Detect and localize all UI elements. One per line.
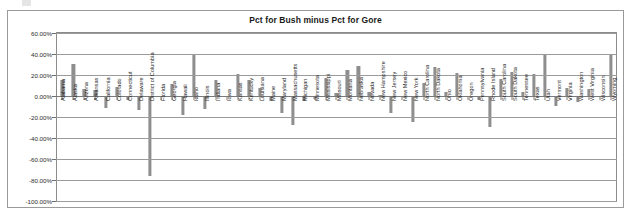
y-axis-tick-label: -60.00%: [10, 156, 52, 163]
x-axis-category-label: Louisiana: [260, 77, 266, 101]
y-axis-tick-mark: [52, 75, 56, 76]
x-axis-category-label: New Mexico: [403, 71, 409, 101]
y-axis-tick-mark: [52, 96, 56, 97]
y-axis-tick-label: -100.00%: [10, 198, 52, 205]
x-axis-category-label: Maryland: [282, 78, 288, 101]
x-axis-category-label: Florida: [161, 84, 167, 101]
x-axis-category-label: Missouri: [337, 80, 343, 101]
x-axis-category-label: Montana: [348, 79, 354, 101]
y-axis-tick-mark: [52, 54, 56, 55]
y-axis-tick-mark: [52, 33, 56, 34]
x-axis-category-label: Idaho: [194, 87, 200, 101]
x-axis-category-label: Georgia: [172, 81, 178, 101]
gridline: [56, 54, 617, 55]
x-axis-category-label: Wyoming: [612, 78, 618, 101]
gridline: [56, 201, 617, 202]
gridline: [56, 180, 617, 181]
x-axis-category-label: Alaska: [73, 84, 79, 101]
x-axis-category-label: Arizona: [84, 82, 90, 101]
x-axis-category-label: Pennsylvania: [480, 68, 486, 101]
x-axis-category-label: Vermont: [557, 80, 563, 101]
x-axis-category-label: Maine: [271, 86, 277, 101]
y-axis-tick-label: 40.00%: [10, 51, 52, 58]
x-axis-category-label: California: [106, 77, 112, 101]
x-axis-category-label: Ohio: [447, 89, 453, 101]
y-axis-tick-label: -20.00%: [10, 114, 52, 121]
x-axis-category-label: Arkansas: [94, 78, 100, 101]
x-axis-category-label: Iowa: [227, 89, 233, 101]
y-axis-tick-mark: [52, 138, 56, 139]
y-axis-tick-mark: [52, 159, 56, 160]
x-axis-category-label: New Jersey: [392, 72, 398, 101]
x-axis-category-label: District of Columbia: [150, 53, 156, 102]
gridline: [56, 117, 617, 118]
y-axis-tick-label: 20.00%: [10, 72, 52, 79]
y-axis-tick-label: 0.00%: [10, 93, 52, 100]
x-axis-category-label: South Dakota: [513, 67, 519, 101]
x-axis-category-label: Kansas: [238, 82, 244, 101]
x-axis-category-label: Mississippi: [326, 74, 332, 101]
x-axis-category-label: Hawaii: [183, 84, 189, 101]
gridline: [56, 75, 617, 76]
x-axis-category-label: North Dakota: [436, 68, 442, 101]
x-axis-category-label: New York: [414, 77, 420, 101]
x-axis-category-label: Wisconsin: [601, 76, 607, 102]
x-axis-category-label: North Carolina: [425, 65, 431, 101]
chart-container: Pct for Bush minus Pct for Gore AlabamaA…: [7, 10, 624, 208]
x-axis-category-label: Virginia: [568, 82, 574, 101]
x-axis-category-label: Texas: [535, 86, 541, 101]
x-axis-category-label: Minnesota: [315, 75, 321, 101]
gridline: [56, 138, 617, 139]
y-axis-tick-label: -40.00%: [10, 135, 52, 142]
y-axis-tick-mark: [52, 180, 56, 181]
plot-region: [56, 32, 617, 202]
x-axis-category-label: Delaware: [139, 77, 145, 101]
x-axis-category-label: Tennessee: [524, 74, 530, 101]
bar: [149, 96, 152, 176]
x-axis-category-label: Kentucky: [249, 78, 255, 101]
y-axis-tick-mark: [52, 117, 56, 118]
y-axis-tick-mark: [52, 201, 56, 202]
x-axis-category-label: Massachusetts: [293, 64, 299, 101]
x-axis-category-label: Oklahoma: [458, 76, 464, 102]
gridline: [56, 33, 617, 34]
x-axis-category-label: Illinois: [205, 85, 211, 101]
x-axis-category-label: Indiana: [216, 83, 222, 101]
scan-artifact: [22, 0, 31, 6]
x-axis-category-label: Washington: [579, 72, 585, 101]
gridline: [56, 159, 617, 160]
y-axis-tick-label: 60.00%: [10, 30, 52, 37]
x-axis-category-label: South Carolina: [502, 64, 508, 101]
screenshot-root: Pct for Bush minus Pct for Gore AlabamaA…: [0, 0, 631, 220]
y-axis-tick-label: -80.00%: [10, 177, 52, 184]
x-axis-category-label: Utah: [546, 89, 552, 101]
x-axis-category-label: Oregon: [469, 82, 475, 101]
x-axis-category-label: West Virginia: [590, 68, 596, 101]
x-axis-category-label: Rhode Island: [491, 68, 497, 101]
x-axis-category-label: Nebraska: [359, 77, 365, 101]
x-axis-category-label: Colorado: [117, 78, 123, 101]
x-axis-category-label: Nevada: [370, 82, 376, 101]
x-axis-category-label: Connecticut: [128, 71, 134, 101]
x-axis-category-label: Michigan: [303, 79, 309, 101]
chart-title: Pct for Bush minus Pct for Gore: [8, 15, 623, 25]
x-axis-category-label: Alabama: [61, 79, 67, 101]
x-axis-category-label: New Hampshire: [381, 61, 387, 101]
